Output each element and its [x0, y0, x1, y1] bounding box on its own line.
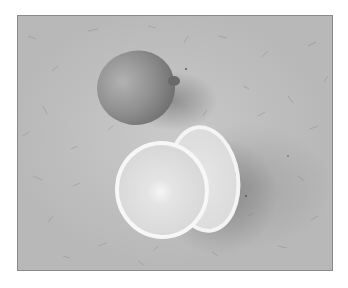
photo-frame	[17, 15, 333, 271]
lemon-tip	[168, 76, 180, 86]
